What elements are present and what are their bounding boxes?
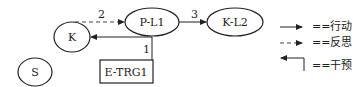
node-etrg1-label: E-TRG1 bbox=[105, 67, 148, 78]
diagram-canvas bbox=[0, 0, 363, 87]
legend-intervention-label: ==干预 bbox=[312, 60, 352, 71]
legend-reflection-label: ==反思 bbox=[312, 37, 352, 48]
legend-action-label: ==行动 bbox=[312, 21, 352, 32]
node-kl2-label: K-L2 bbox=[222, 17, 247, 28]
node-k-label: K bbox=[68, 32, 76, 43]
edge-label-1: 1 bbox=[143, 44, 150, 55]
edge-label-3: 3 bbox=[191, 9, 198, 20]
node-s-label: S bbox=[31, 67, 39, 78]
node-pl1-label: P-L1 bbox=[140, 17, 165, 28]
edge-label-2: 2 bbox=[98, 9, 105, 20]
legend-elbow-arrow-icon bbox=[281, 58, 304, 71]
